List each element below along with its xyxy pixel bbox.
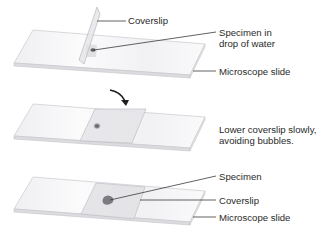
label-slide-step3: Microscope slide [219,212,290,223]
step-3-slide-assembly [14,177,205,225]
label-slide-step1: Microscope slide [219,66,290,77]
instruction-line1-step2: Lower coverslip slowly, [219,124,316,135]
instruction-line2-step2: avoiding bubbles. [219,135,294,146]
wet-mount-diagram [0,0,335,239]
label-specimen-line2-step1: drop of water [219,38,275,49]
step-1-slide-assembly [14,7,205,78]
label-specimen-step3: Specimen [219,171,262,182]
label-specimen-line1-step1: Specimen in [219,27,272,38]
curved-arrow-icon [110,90,129,106]
label-coverslip-step3: Coverslip [219,195,259,206]
step-2-slide-assembly [14,104,205,151]
label-coverslip-step1: Coverslip [128,15,168,26]
